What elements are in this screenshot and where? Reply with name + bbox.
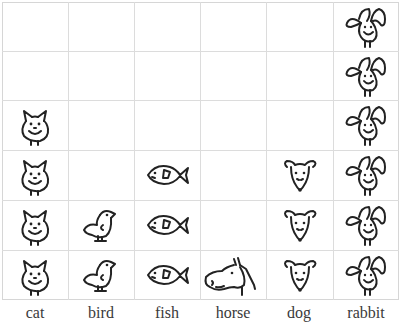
cat-icon (2, 150, 68, 200)
dog-icon (266, 150, 333, 200)
rabbit-icon (333, 51, 399, 100)
label-fish: fish (134, 304, 200, 322)
dog-icon (266, 250, 333, 300)
label-dog: dog (266, 304, 332, 322)
category-labels: cat bird fish horse dog rabbit (2, 304, 399, 328)
label-bird: bird (68, 304, 134, 322)
fish-icon (134, 200, 200, 250)
cat-icon (2, 200, 68, 250)
cat-icon (2, 100, 68, 150)
rabbit-icon (333, 100, 399, 150)
dog-icon (266, 200, 333, 250)
bird-icon (68, 250, 134, 300)
cat-icon (2, 250, 68, 300)
pictograph-chart (2, 2, 399, 300)
bird-icon (68, 200, 134, 250)
rabbit-icon (333, 2, 399, 51)
rabbit-icon (333, 150, 399, 200)
rabbit-icon (333, 200, 399, 250)
fish-icon (134, 150, 200, 200)
label-rabbit: rabbit (333, 304, 399, 322)
horse-icon (200, 250, 266, 300)
label-horse: horse (200, 304, 266, 322)
fish-icon (134, 250, 200, 300)
rabbit-icon (333, 250, 399, 300)
label-cat: cat (2, 304, 68, 322)
